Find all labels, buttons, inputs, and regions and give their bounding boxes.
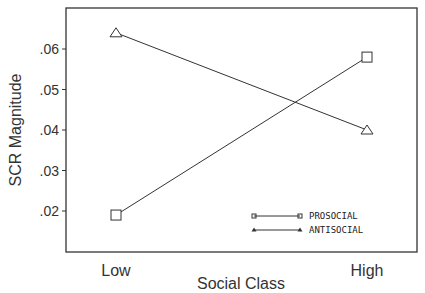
x-category-low: Low (101, 262, 131, 279)
triangle-marker-icon (110, 28, 122, 37)
square-marker-icon (111, 210, 121, 220)
y-tick-label: .05 (40, 82, 60, 98)
x-axis-title: Social Class (197, 275, 285, 292)
series-line-antisocial (116, 33, 367, 130)
y-axis-title: SCR Magnitude (7, 73, 24, 186)
legend: PROSOCIAL ANTISOCIAL (252, 211, 364, 235)
y-tick-label: .03 (40, 163, 60, 179)
data-lines (116, 33, 367, 215)
triangle-marker-icon (361, 125, 373, 134)
legend-antisocial-label: ANTISOCIAL (309, 225, 363, 235)
data-markers (110, 28, 373, 220)
y-tick-label: .04 (40, 122, 60, 138)
y-axis-ticks: .02.03.04.05.06 (40, 41, 66, 219)
chart: .02.03.04.05.06 Low High Social Class SC… (0, 0, 425, 293)
y-tick-label: .06 (40, 41, 60, 57)
y-tick-label: .02 (40, 203, 60, 219)
square-marker-icon (362, 52, 372, 62)
legend-prosocial-label: PROSOCIAL (309, 211, 358, 221)
x-category-high: High (351, 262, 384, 279)
series-line-prosocial (116, 57, 367, 215)
